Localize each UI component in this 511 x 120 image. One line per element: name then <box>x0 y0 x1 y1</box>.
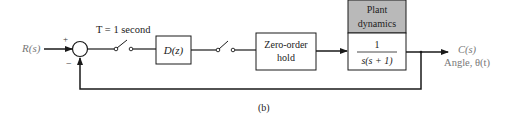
controller-label: D(z) <box>163 44 184 57</box>
plant-denominator: s(s + 1) <box>361 55 393 67</box>
plant-numerator: 1 <box>375 39 380 50</box>
summing-junction <box>73 42 88 57</box>
plant-header-line1: Plant <box>367 4 388 15</box>
zoh-label-line1: Zero-order <box>264 39 308 50</box>
output-sublabel: Angle, θ(t) <box>444 57 490 69</box>
input-label: R(s) <box>21 42 41 55</box>
figure-caption: (b) <box>258 102 270 114</box>
sum-plus-sign: + <box>63 34 68 44</box>
zoh-label-line2: hold <box>277 52 295 63</box>
sampler-switch-2 <box>216 41 235 52</box>
sum-minus-sign: − <box>66 58 72 69</box>
sampler-switch-1 <box>114 40 133 51</box>
sampling-period-label: T = 1 second <box>96 24 151 35</box>
output-label: C(s) <box>458 44 477 56</box>
block-diagram: R(s) + − T = 1 second D(z) Zero-order ho… <box>0 0 511 120</box>
plant-header-line2: dynamics <box>358 18 396 29</box>
